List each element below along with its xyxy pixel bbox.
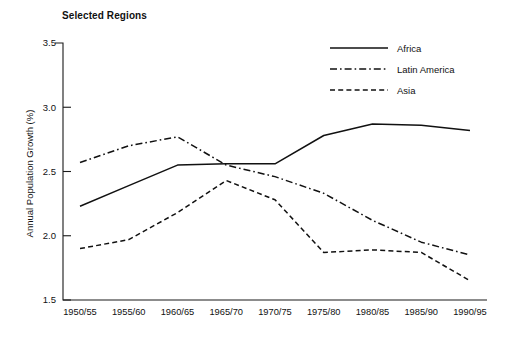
series-line-asia xyxy=(80,180,470,280)
series-lines xyxy=(80,124,470,281)
axis-frame xyxy=(55,43,487,300)
legend-label-latin-america: Latin America xyxy=(397,64,455,75)
x-tick-label: 1985/90 xyxy=(404,307,438,317)
y-tick-label: 3.5 xyxy=(43,37,56,48)
y-tick-label: 3.0 xyxy=(43,102,56,113)
x-tick-label: 1980/85 xyxy=(356,307,390,317)
series-line-africa xyxy=(80,124,470,206)
x-tick-label: 1965/70 xyxy=(209,307,243,317)
x-tick-label: 1960/65 xyxy=(161,307,195,317)
y-tick-label: 2.0 xyxy=(43,230,56,241)
x-tick-label: 1990/95 xyxy=(453,307,487,317)
population-growth-chart: Selected Regions Annual Population Growt… xyxy=(0,0,510,338)
chart-legend: AfricaLatin AmericaAsia xyxy=(330,43,455,96)
y-tick-label: 2.5 xyxy=(43,166,56,177)
x-tick-label: 1975/80 xyxy=(307,307,341,317)
x-tick-label: 1970/75 xyxy=(258,307,292,317)
x-tick-label: 1950/55 xyxy=(63,307,97,317)
y-axis-ticks: 1.52.02.53.03.5 xyxy=(43,37,71,305)
legend-label-africa: Africa xyxy=(397,43,422,54)
legend-label-asia: Asia xyxy=(397,85,416,96)
x-tick-label: 1955/60 xyxy=(112,307,146,317)
y-tick-label: 1.5 xyxy=(43,294,56,305)
series-line-latin-america xyxy=(80,137,470,255)
chart-canvas: 1.52.02.53.03.5 1950/551955/601960/65196… xyxy=(0,0,510,338)
x-axis-ticks: 1950/551955/601960/651965/701970/751975/… xyxy=(63,307,487,317)
